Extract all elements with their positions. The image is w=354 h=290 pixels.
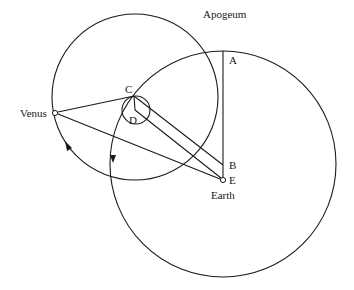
label-venus: Venus <box>20 107 47 119</box>
label-c: C <box>125 83 132 95</box>
label-e: E <box>229 174 236 186</box>
arrow-deferent-icon <box>110 155 116 163</box>
line-c-b <box>134 96 223 165</box>
label-earth: Earth <box>211 189 235 201</box>
label-d: D <box>129 114 137 126</box>
label-b: B <box>229 159 236 171</box>
venus-model-diagram: Apogeum A B C D E Venus Earth <box>0 0 354 290</box>
label-a: A <box>229 54 237 66</box>
earth-point-icon <box>220 177 225 182</box>
venus-point-icon <box>52 110 57 115</box>
line-venus-c <box>58 96 134 112</box>
label-apogeum: Apogeum <box>203 8 247 20</box>
line-c-d <box>134 96 135 110</box>
